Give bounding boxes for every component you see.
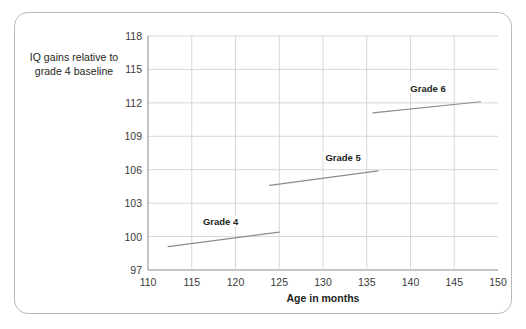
x-axis-tick-label: 125 bbox=[270, 276, 288, 288]
series-label-grade-5: Grade 5 bbox=[323, 152, 362, 163]
data-line-segment bbox=[270, 171, 379, 185]
series-label-grade-4: Grade 4 bbox=[201, 215, 240, 226]
y-axis-title-line2: grade 4 baseline bbox=[35, 65, 113, 77]
data-line-segment bbox=[373, 102, 481, 113]
x-axis-tick-label: 110 bbox=[140, 276, 157, 288]
x-axis-tick-label: 115 bbox=[183, 276, 200, 288]
x-axis-tick-label: 145 bbox=[445, 276, 463, 288]
y-axis-title-line1: IQ gains relative to bbox=[30, 51, 119, 63]
y-axis-tick-label: 106 bbox=[124, 164, 142, 176]
y-axis-tick-label: 97 bbox=[130, 264, 142, 276]
y-axis-tick-label: 103 bbox=[124, 197, 142, 209]
plot-wrapper: IQ gains relative to grade 4 baseline Ag… bbox=[0, 0, 526, 329]
y-axis-tick-label: 112 bbox=[125, 97, 142, 109]
x-axis-tick-label: 150 bbox=[489, 276, 507, 288]
x-axis-title: Age in months bbox=[148, 292, 498, 304]
y-axis-tick-label: 109 bbox=[124, 130, 142, 142]
y-axis-tick-label: 115 bbox=[125, 63, 142, 75]
series-label-grade-6: Grade 6 bbox=[408, 83, 447, 94]
y-axis-tick-label: 118 bbox=[125, 30, 142, 42]
x-axis-tick-label: 130 bbox=[314, 276, 332, 288]
y-axis-title: IQ gains relative to grade 4 baseline bbox=[22, 50, 126, 78]
x-axis-tick-label: 135 bbox=[358, 276, 376, 288]
data-line-segment bbox=[168, 232, 279, 246]
plot-area: 9710010310610911211511811011512012513013… bbox=[148, 36, 498, 270]
chart-figure: IQ gains relative to grade 4 baseline Ag… bbox=[0, 0, 526, 329]
y-axis-tick-label: 100 bbox=[124, 231, 142, 243]
x-axis-tick-label: 140 bbox=[402, 276, 420, 288]
x-axis-tick-label: 120 bbox=[227, 276, 245, 288]
